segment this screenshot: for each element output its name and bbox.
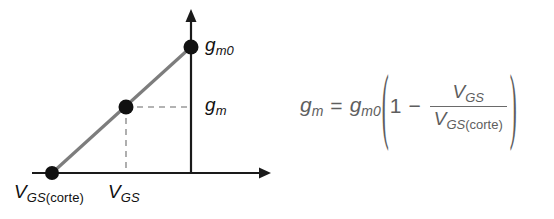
label-gm0-base: g <box>205 34 216 55</box>
label-vgs-base: V <box>108 181 121 202</box>
equation-numerator-sub: GS <box>465 90 484 105</box>
figure-root: gm0 gm VGS(corte) VGS gm = gm0 ( 1 − VGS <box>0 0 554 219</box>
label-vgs-corte-sub-roman: (corte) <box>46 190 84 205</box>
label-vgs-corte: VGS(corte) <box>14 182 84 204</box>
equation-fraction: VGS VGS(corte) <box>430 80 507 133</box>
equation-numerator: VGS <box>449 80 488 106</box>
label-gm-sub: m <box>216 103 227 118</box>
equation-lhs-sub: m <box>312 103 324 119</box>
label-gm0-sub-trailing: 0 <box>227 43 234 58</box>
label-vgs-corte-sub: GS <box>27 190 46 205</box>
label-vgs-sub: GS <box>121 190 140 205</box>
label-gm: gm <box>205 95 227 117</box>
label-gm0-sub: m <box>216 43 227 58</box>
equation-lhs: gm <box>300 93 323 119</box>
max-point <box>184 40 199 55</box>
equation-coefficient: gm0 <box>350 93 381 119</box>
equation-denominator: VGS(corte) <box>430 107 507 133</box>
equation-area: gm = gm0 ( 1 − VGS VGS(corte) ) <box>300 60 550 160</box>
x-axis <box>32 168 271 179</box>
equation-lhs-base: g <box>300 93 312 116</box>
label-vgs: VGS <box>108 182 140 204</box>
equation-coefficient-base: g <box>350 93 362 116</box>
equation-denominator-sub-roman: (corte) <box>465 117 503 132</box>
equation-one: 1 <box>390 94 402 118</box>
equation-denominator-base: V <box>434 108 447 129</box>
equation-denominator-sub: GS <box>446 117 465 132</box>
equation-minus: − <box>401 94 427 118</box>
operating-point <box>119 100 134 115</box>
y-axis <box>186 9 197 173</box>
equation-coefficient-sub-trailing: 0 <box>373 103 381 119</box>
equation-coefficient-sub: m <box>361 103 373 119</box>
equation-row: gm = gm0 ( 1 − VGS VGS(corte) ) <box>300 80 518 133</box>
label-gm0: gm0 <box>205 35 234 57</box>
transconductance-plot: gm0 gm VGS(corte) VGS <box>0 0 290 219</box>
equation-numerator-base: V <box>453 81 466 102</box>
label-gm-base: g <box>205 94 216 115</box>
equation-equals: = <box>323 94 349 118</box>
cutoff-point <box>45 166 59 180</box>
equation-paren-open: ( <box>382 56 389 156</box>
label-vgs-corte-base: V <box>14 181 27 202</box>
equation-paren-close: ) <box>510 56 517 156</box>
